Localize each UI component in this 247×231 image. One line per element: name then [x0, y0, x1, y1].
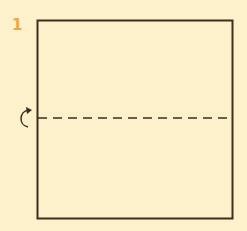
paper-square	[38, 21, 233, 219]
fold-diagram	[0, 0, 247, 231]
fold-arrow-icon	[21, 107, 32, 127]
